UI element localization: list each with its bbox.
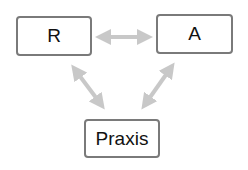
node-r-label: R: [47, 25, 61, 47]
node-praxis: Praxis: [84, 119, 160, 158]
node-a-label: A: [188, 23, 201, 45]
arrow-r-praxis: [76, 71, 100, 103]
arrow-a-praxis: [146, 69, 170, 103]
node-a: A: [156, 14, 233, 54]
node-praxis-label: Praxis: [96, 128, 149, 150]
node-r: R: [16, 16, 92, 56]
